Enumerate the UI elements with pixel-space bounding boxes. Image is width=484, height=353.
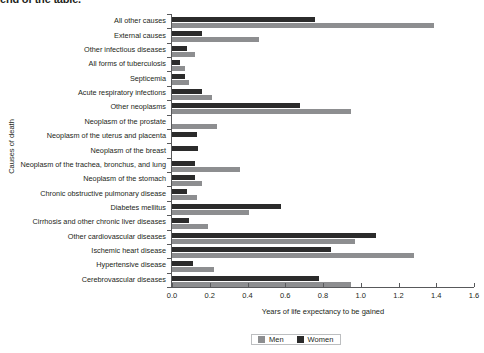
x-tick-label: 1.0 (341, 291, 381, 300)
y-tick (167, 143, 171, 144)
category-label: Cirrhosis and other chronic liver diseas… (0, 218, 166, 226)
bar-men (172, 124, 217, 129)
x-tick-label: 1.2 (379, 291, 419, 300)
bar-women (172, 103, 300, 108)
x-tick (172, 283, 173, 287)
y-tick (167, 258, 171, 259)
bar-women (172, 89, 202, 94)
bar-men (172, 167, 240, 172)
x-tick (399, 283, 400, 287)
bar-men (172, 181, 202, 186)
y-tick (167, 287, 171, 288)
bar-women (172, 132, 197, 137)
bar-women (172, 46, 187, 51)
bar-women (172, 17, 315, 22)
y-tick (167, 215, 171, 216)
y-tick (167, 244, 171, 245)
category-label: Acute respiratory infections (0, 89, 166, 97)
bar-women (172, 146, 198, 151)
bar-men (172, 80, 189, 85)
legend-label-women: Women (308, 336, 334, 344)
chart-legend: Men Women (251, 334, 341, 345)
y-tick (167, 28, 171, 29)
category-label: Neoplasm of the stomach (0, 175, 166, 183)
plot-area (172, 14, 474, 287)
bar-men (172, 239, 355, 244)
x-tick (323, 283, 324, 287)
bar-women (172, 189, 187, 194)
x-tick-label: 1.4 (416, 291, 456, 300)
x-tick (285, 283, 286, 287)
y-tick (167, 201, 171, 202)
category-label: Neoplasm of the prostate (0, 118, 166, 126)
bar-men (172, 195, 197, 200)
x-axis-title: Years of life expectancy to be gained (172, 307, 474, 316)
y-tick (167, 14, 171, 15)
y-tick (167, 158, 171, 159)
legend-swatch-women-icon (297, 336, 304, 343)
y-tick (167, 71, 171, 72)
bar-men (172, 23, 434, 28)
bar-men (172, 253, 414, 258)
bar-women (172, 204, 281, 209)
bar-men (172, 95, 212, 100)
category-label: Other neoplasms (0, 103, 166, 111)
x-tick (210, 283, 211, 287)
bar-women (172, 74, 185, 79)
category-label: Diabetes mellitus (0, 204, 166, 212)
bar-women (172, 276, 319, 281)
category-label: Neoplasm of the uterus and placenta (0, 132, 166, 140)
category-label: Neoplasm of the trachea, bronchus, and l… (0, 161, 166, 169)
bar-men (172, 224, 208, 229)
x-tick-label: 0.0 (152, 291, 192, 300)
y-tick (167, 57, 171, 58)
bar-women (172, 247, 331, 252)
bar-women (172, 31, 202, 36)
category-label: Chronic obstructive pulmonary disease (0, 190, 166, 198)
category-label: Cerebrovascular diseases (0, 276, 166, 284)
bar-men (172, 282, 351, 287)
legend-item-women: Women (297, 336, 334, 344)
bar-women (172, 261, 193, 266)
y-tick (167, 172, 171, 173)
bar-women (172, 60, 180, 65)
x-tick-label: 0.2 (190, 291, 230, 300)
bar-men (172, 109, 351, 114)
x-tick (474, 283, 475, 287)
bar-women (172, 161, 195, 166)
x-tick-label: 0.6 (265, 291, 305, 300)
bar-men (172, 52, 195, 57)
bar-men (172, 267, 214, 272)
bar-men (172, 210, 249, 215)
category-label-group: All other causesExternal causesOther inf… (0, 0, 168, 353)
bar-men (172, 66, 185, 71)
category-label: Neoplasm of the breast (0, 147, 166, 155)
category-label: Hypertensive disease (0, 261, 166, 269)
y-tick (167, 186, 171, 187)
x-tick-label: 0.8 (303, 291, 343, 300)
category-label: All forms of tuberculosis (0, 60, 166, 68)
bar-women (172, 175, 195, 180)
bar-women (172, 218, 189, 223)
legend-swatch-men-icon (258, 336, 265, 343)
bar-row (172, 273, 474, 290)
x-tick (248, 283, 249, 287)
x-tick-label: 0.4 (228, 291, 268, 300)
x-tick-label: 1.6 (454, 291, 484, 300)
bar-women (172, 233, 376, 238)
category-label: Ischemic heart disease (0, 247, 166, 255)
legend-item-men: Men (258, 336, 284, 344)
bar-men (172, 37, 259, 42)
x-tick (361, 283, 362, 287)
category-label: All other causes (0, 17, 166, 25)
x-tick (436, 283, 437, 287)
category-label: Septicemia (0, 75, 166, 83)
y-tick (167, 100, 171, 101)
category-label: External causes (0, 32, 166, 40)
y-tick (167, 129, 171, 130)
y-axis-title: Causes of death (7, 107, 16, 187)
y-tick (167, 115, 171, 116)
category-label: Other infectious diseases (0, 46, 166, 54)
legend-label-men: Men (269, 336, 284, 344)
